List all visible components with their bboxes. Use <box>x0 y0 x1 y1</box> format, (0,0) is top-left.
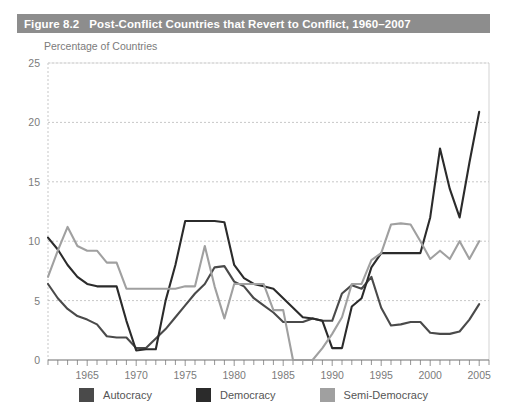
chart-legend: Autocracy Democracy Semi-Democracy <box>0 388 507 402</box>
legend-label-democracy: Democracy <box>220 389 276 401</box>
x-tick-label: 1965 <box>76 369 100 381</box>
x-tick-label: 1995 <box>370 369 394 381</box>
x-tick-label: 2000 <box>419 369 443 381</box>
legend-swatch-democracy <box>196 388 211 402</box>
x-tick-label: 1970 <box>125 369 149 381</box>
x-tick-label: 2005 <box>468 369 492 381</box>
y-tick-label: 15 <box>28 176 40 188</box>
plot-area: 0510152025196519701975198019851990199520… <box>0 0 507 413</box>
x-tick-label: 1980 <box>223 369 247 381</box>
figure-container: Figure 8.2 Post-Conflict Countries that … <box>0 0 507 413</box>
y-tick-label: 25 <box>28 57 40 69</box>
x-tick-label: 1985 <box>272 369 296 381</box>
legend-label-autocracy: Autocracy <box>103 389 152 401</box>
y-tick-label: 5 <box>34 295 40 307</box>
chart-svg: 0510152025196519701975198019851990199520… <box>0 0 507 413</box>
y-tick-label: 20 <box>28 116 40 128</box>
legend-item-democracy[interactable]: Democracy <box>196 388 276 402</box>
y-tick-label: 10 <box>28 235 40 247</box>
x-tick-label: 1990 <box>321 369 345 381</box>
legend-item-semi-democracy[interactable]: Semi-Democracy <box>320 388 428 402</box>
legend-swatch-semi-democracy <box>320 388 335 402</box>
legend-swatch-autocracy <box>79 388 94 402</box>
legend-item-autocracy[interactable]: Autocracy <box>79 388 152 402</box>
y-tick-label: 0 <box>34 354 40 366</box>
legend-label-semi-democracy: Semi-Democracy <box>344 389 428 401</box>
x-tick-label: 1975 <box>174 369 198 381</box>
